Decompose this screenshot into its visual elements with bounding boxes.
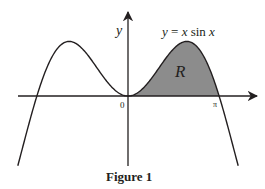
pi-label: π (213, 100, 217, 109)
figure-1: y y = x sin x R 0 π Figure 1 (0, 0, 265, 189)
figure-caption: Figure 1 (106, 169, 152, 184)
region-label: R (174, 62, 186, 81)
curve-label: y = x sin x (160, 24, 215, 39)
origin-label: 0 (120, 100, 125, 110)
y-axis-label: y (114, 23, 123, 38)
